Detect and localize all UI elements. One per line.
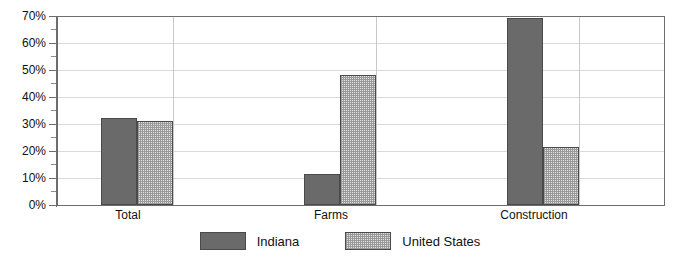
bar-total-united-states bbox=[137, 121, 173, 205]
bar-chart: 70% 60% 50% 40% 30% 20% 10% 0% bbox=[0, 0, 680, 269]
y-axis-minor-tick bbox=[51, 29, 56, 30]
legend-swatch-indiana-icon bbox=[200, 232, 246, 250]
y-axis-minor-tick bbox=[51, 110, 56, 111]
y-axis-tick bbox=[49, 151, 57, 152]
bar-construction-indiana bbox=[507, 18, 543, 205]
y-axis-tick-label: 0% bbox=[0, 199, 46, 211]
chart-legend: Indiana United States bbox=[0, 232, 680, 250]
y-axis-tick-label: 40% bbox=[0, 91, 46, 103]
y-axis-tick bbox=[49, 43, 57, 44]
y-axis-minor-tick bbox=[51, 191, 56, 192]
y-axis-tick-label: 50% bbox=[0, 64, 46, 76]
y-axis-tick bbox=[49, 205, 57, 206]
x-axis-tick-label-total: Total bbox=[80, 208, 176, 222]
bar-farms-united-states bbox=[340, 75, 376, 205]
y-axis-tick-label: 30% bbox=[0, 118, 46, 130]
x-axis-tick-label-construction: Construction bbox=[470, 208, 598, 222]
y-axis-tick-label: 60% bbox=[0, 37, 46, 49]
legend-swatch-united-states-icon bbox=[345, 232, 391, 250]
y-axis-minor-tick bbox=[51, 56, 56, 57]
bar-farms-indiana bbox=[304, 174, 340, 205]
legend-label-united-states: United States bbox=[402, 234, 480, 249]
y-axis-minor-tick bbox=[51, 83, 56, 84]
bar-total-indiana bbox=[101, 118, 137, 205]
y-axis-tick bbox=[49, 124, 57, 125]
category-separator bbox=[376, 17, 377, 205]
legend-item-indiana: Indiana bbox=[200, 232, 300, 250]
x-axis-tick-label-farms: Farms bbox=[283, 208, 379, 222]
y-axis-minor-tick bbox=[51, 137, 56, 138]
bar-construction-united-states bbox=[543, 147, 579, 205]
y-axis-tick bbox=[49, 16, 57, 17]
category-separator bbox=[579, 17, 580, 205]
y-axis-minor-tick bbox=[51, 164, 56, 165]
gridline bbox=[58, 70, 664, 71]
legend-label-indiana: Indiana bbox=[257, 234, 300, 249]
y-axis-tick bbox=[49, 178, 57, 179]
y-axis-tick bbox=[49, 97, 57, 98]
gridline bbox=[58, 43, 664, 44]
y-axis-tick bbox=[49, 70, 57, 71]
legend-item-united-states: United States bbox=[345, 232, 480, 250]
category-separator bbox=[173, 17, 174, 205]
y-axis-tick-label: 10% bbox=[0, 172, 46, 184]
plot-area bbox=[57, 16, 665, 206]
y-axis-tick-label: 70% bbox=[0, 10, 46, 22]
y-axis-tick-label: 20% bbox=[0, 145, 46, 157]
